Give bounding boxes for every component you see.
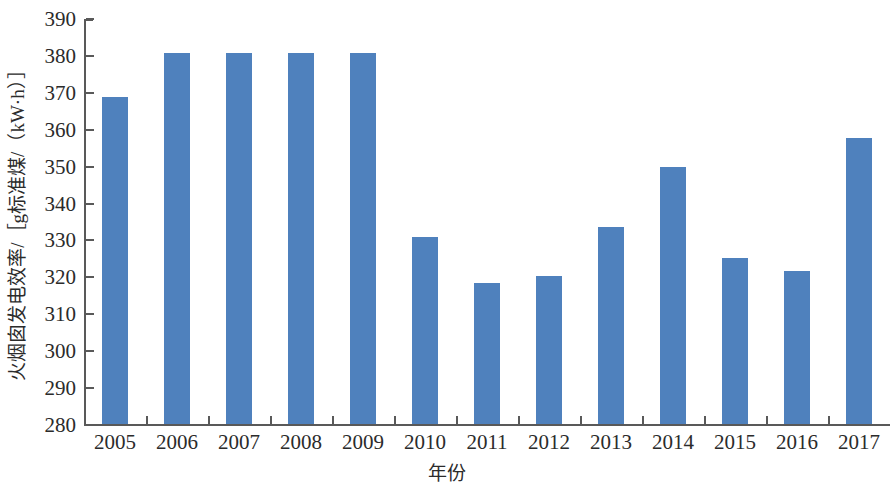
y-axis-tick-mark [86,166,94,168]
y-axis-tick-label: 290 [45,378,77,399]
bar-2009 [350,53,376,424]
x-axis-tick-labels: 2005200620072008200920102011201220132014… [84,432,890,460]
y-axis-tick-mark [86,424,94,426]
x-axis-tick-label: 2007 [218,432,260,453]
x-axis-tick-mark [642,416,644,425]
y-axis-tick-label: 370 [45,82,77,103]
x-axis-tick-label: 2005 [94,432,136,453]
x-axis-tick-label: 2015 [714,432,756,453]
y-axis-tick-label: 310 [45,304,77,325]
y-axis-tick-mark [86,313,94,315]
y-axis-tick-mark [86,129,94,131]
y-axis-tick-mark [86,18,94,20]
y-axis-tick-mark [86,55,94,57]
x-axis-tick-mark [704,416,706,425]
x-axis-tick-label: 2011 [466,432,507,453]
bar-2008 [288,53,314,424]
y-axis-tick-mark [86,92,94,94]
y-axis-tick-label: 280 [45,415,77,436]
y-axis-tick-mark [86,203,94,205]
y-axis-tick-label: 360 [45,119,77,140]
x-axis-tick-label: 2012 [528,432,570,453]
x-axis-tick-mark [766,416,768,425]
y-axis-title-text: 火烟囱发电效率/［g标准煤/（kW·h）］ [2,60,29,380]
y-axis-tick-mark [86,387,94,389]
y-axis-tick-mark [86,239,94,241]
x-axis-line [84,424,890,426]
bar-2012 [536,276,562,424]
x-axis-tick-mark [332,416,334,425]
x-axis-tick-label: 2009 [342,432,384,453]
x-axis-tick-mark [518,416,520,425]
y-axis-tick-labels: 280290300310320330340350360370380390 [28,0,80,440]
x-axis-tick-mark [270,416,272,425]
y-axis-tick-label: 350 [45,156,77,177]
x-axis-tick-mark [456,416,458,425]
bar-2013 [598,227,624,424]
y-axis-title: 火烟囱发电效率/［g标准煤/（kW·h）］ [0,0,30,440]
bar-2015 [722,258,748,424]
bar-2005 [102,97,128,424]
plot-area [84,19,890,425]
bar-2017 [846,138,872,424]
y-axis-tick-label: 340 [45,193,77,214]
x-axis-title: 年份 [0,458,894,484]
bar-chart-figure: 火烟囱发电效率/［g标准煤/（kW·h）］ 280290300310320330… [0,0,894,484]
x-axis-tick-mark [208,416,210,425]
y-axis-tick-label: 390 [45,9,77,30]
x-axis-tick-label: 2010 [404,432,446,453]
x-axis-tick-label: 2016 [776,432,818,453]
y-axis-tick-label: 300 [45,341,77,362]
y-axis-tick-mark [86,276,94,278]
x-axis-tick-mark [580,416,582,425]
x-axis-tick-label: 2013 [590,432,632,453]
bar-2007 [226,53,252,424]
x-axis-tick-label: 2006 [156,432,198,453]
bar-2010 [412,237,438,424]
y-axis-tick-label: 330 [45,230,77,251]
x-axis-tick-label: 2014 [652,432,694,453]
x-axis-tick-mark [146,416,148,425]
y-axis-tick-label: 320 [45,267,77,288]
bar-2014 [660,167,686,424]
x-axis-tick-mark [394,416,396,425]
x-axis-tick-mark [828,416,830,425]
y-axis-tick-mark [86,350,94,352]
y-axis-tick-label: 380 [45,45,77,66]
bar-2006 [164,53,190,424]
x-axis-tick-label: 2017 [838,432,880,453]
x-axis-tick-label: 2008 [280,432,322,453]
y-axis-line [84,19,86,426]
bar-2011 [474,283,500,424]
bar-2016 [784,271,810,424]
